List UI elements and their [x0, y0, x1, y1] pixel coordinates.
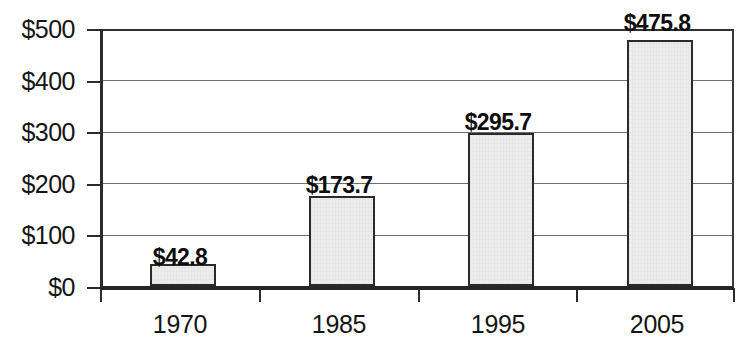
x-axis-line	[100, 287, 734, 290]
xtick-mark-4	[733, 288, 735, 302]
ytick-mark-300	[87, 132, 100, 134]
value-label-1995: $295.7	[465, 109, 532, 136]
ytick-mark-200	[87, 184, 100, 186]
value-label-1985: $173.7	[306, 172, 373, 199]
ytick-mark-100	[87, 235, 100, 237]
xtick-mark-3	[576, 288, 578, 302]
xtick-mark-2	[418, 288, 420, 302]
ytick-label-100: $100	[0, 221, 75, 250]
ytick-label-200: $200	[0, 170, 75, 199]
xtick-mark-1	[259, 288, 261, 302]
xtick-label-1995: 1995	[471, 310, 525, 339]
bar-1995[interactable]	[468, 133, 534, 286]
bar-2005[interactable]	[627, 40, 693, 286]
xtick-label-1970: 1970	[153, 310, 207, 339]
value-label-1970: $42.8	[153, 244, 208, 271]
value-label-2005: $475.8	[624, 10, 691, 37]
ytick-mark-0	[87, 287, 100, 289]
ytick-mark-500	[87, 29, 100, 31]
xtick-label-1985: 1985	[312, 310, 366, 339]
ytick-label-400: $400	[0, 67, 75, 96]
xtick-label-2005: 2005	[630, 310, 684, 339]
ytick-label-300: $300	[0, 118, 75, 147]
bar-1985[interactable]	[309, 196, 375, 286]
bar-chart: $500 $400 $300 $200 $100 $0 $42.8 $173.7…	[0, 0, 747, 353]
ytick-label-500: $500	[0, 15, 75, 44]
ytick-label-0: $0	[0, 273, 75, 302]
ytick-mark-400	[87, 81, 100, 83]
xtick-mark-0	[100, 288, 102, 302]
